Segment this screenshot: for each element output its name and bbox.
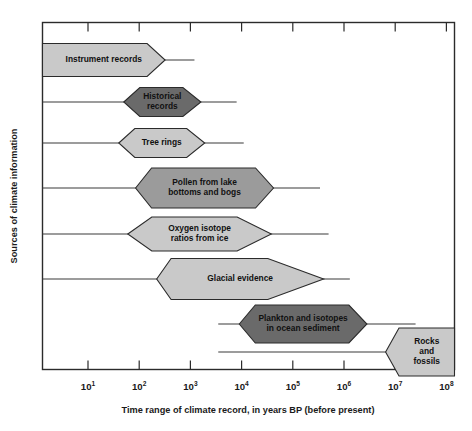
range-band-label: Instrument records — [66, 54, 143, 64]
range-band-label: Plankton and isotopesin ocean sediment — [258, 313, 348, 333]
range-band-label: Pollen from lakebottoms and bogs — [168, 177, 241, 197]
range-band-label: Glacial evidence — [207, 273, 273, 283]
x-axis-title: Time range of climate record, in years B… — [122, 405, 375, 415]
range-band-label: Oxygen isotoperatios from ice — [168, 223, 231, 243]
climate-sources-range-chart: Instrument recordsHistoricalrecordsTree … — [0, 0, 472, 431]
range-band-label: Tree rings — [142, 137, 182, 147]
range-band-label: Historicalrecords — [143, 91, 181, 111]
y-axis-title: Sources of climate information — [9, 128, 19, 263]
chart-container: Instrument recordsHistoricalrecordsTree … — [0, 0, 472, 431]
